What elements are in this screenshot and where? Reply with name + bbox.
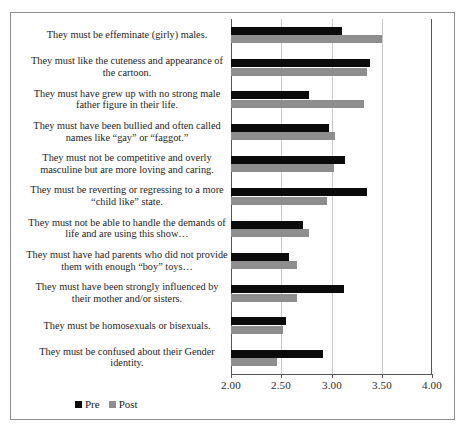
legend-label: Post (119, 398, 138, 410)
x-axis-tick (231, 374, 232, 378)
bar-row: They must like the cuteness and appearan… (11, 51, 454, 83)
x-axis-tick (332, 374, 333, 378)
chart-legend: PrePost (75, 398, 138, 410)
bar-row: They must have been strongly influenced … (11, 277, 454, 309)
bar-row: They must have had parents who did not p… (11, 245, 454, 277)
category-label: They must not be able to handle the dema… (25, 217, 229, 240)
bar-post (231, 358, 277, 366)
bar-post (231, 326, 283, 334)
bar-pre (231, 91, 309, 99)
bar-post (231, 132, 335, 140)
x-axis-tick-label: 2.50 (261, 379, 301, 391)
bar-pre (231, 253, 289, 261)
bar-post (231, 35, 382, 43)
bar-pre (231, 124, 329, 132)
chart-figure: They must be effeminate (girly) males.Th… (10, 12, 455, 420)
bar-row: They must have been bullied and often ca… (11, 116, 454, 148)
x-axis-tick-label: 3.50 (362, 379, 402, 391)
bar-row: They must be reverting or regressing to … (11, 180, 454, 212)
bar-pre (231, 188, 367, 196)
bar-pre (231, 317, 286, 325)
bar-row: They must be effeminate (girly) males. (11, 19, 454, 51)
bar-post (231, 229, 309, 237)
bar-pre (231, 59, 370, 67)
x-axis-tick-label: 3.00 (312, 379, 352, 391)
bar-row: They must be confused about their Gender… (11, 342, 454, 374)
bar-row: They must not be competitive and overly … (11, 148, 454, 180)
bar-pre (231, 285, 344, 293)
bar-pre (231, 221, 303, 229)
bar-post (231, 261, 297, 269)
x-axis-tick (432, 374, 433, 378)
legend-item-pre[interactable]: Pre (75, 398, 100, 410)
bar-pre (231, 350, 323, 358)
x-axis-tick (382, 374, 383, 378)
bar-post (231, 197, 327, 205)
category-label: They must have been strongly influenced … (25, 282, 229, 305)
bar-pre (231, 27, 342, 35)
category-label: They must have grew up with no strong ma… (25, 88, 229, 111)
category-label: They must not be competitive and overly … (25, 153, 229, 176)
legend-swatch-pre (75, 401, 82, 408)
category-label: They must be homosexuals or bisexuals. (25, 320, 229, 332)
category-label: They must have been bullied and often ca… (25, 120, 229, 143)
legend-swatch-post (109, 401, 116, 408)
bar-row: They must be homosexuals or bisexuals. (11, 309, 454, 341)
category-label: They must be reverting or regressing to … (25, 185, 229, 208)
bar-post (231, 164, 334, 172)
category-label: They must like the cuteness and appearan… (25, 56, 229, 79)
bar-row: They must not be able to handle the dema… (11, 213, 454, 245)
legend-item-post[interactable]: Post (109, 398, 138, 410)
bar-post (231, 68, 367, 76)
category-label: They must be effeminate (girly) males. (25, 29, 229, 41)
bar-row: They must have grew up with no strong ma… (11, 84, 454, 116)
bar-pre (231, 156, 345, 164)
x-axis-tick-label: 4.00 (412, 379, 452, 391)
x-axis-tick-label: 2.00 (211, 379, 251, 391)
bar-post (231, 100, 364, 108)
category-label: They must have had parents who did not p… (25, 249, 229, 272)
legend-label: Pre (85, 398, 100, 410)
category-label: They must be confused about their Gender… (25, 346, 229, 369)
bar-post (231, 294, 297, 302)
x-axis-tick (281, 374, 282, 378)
